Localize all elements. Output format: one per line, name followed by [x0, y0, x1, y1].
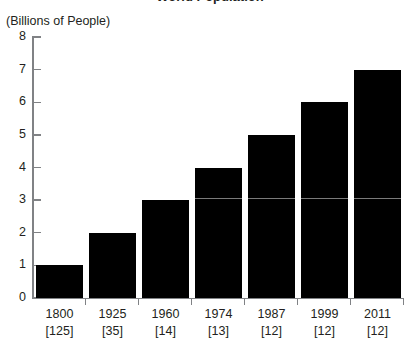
x-axis-label: 1999[12]: [298, 306, 351, 339]
x-axis-label: 1925[35]: [86, 306, 139, 339]
x-axis-tick: [85, 298, 86, 305]
x-axis-label-year: 1800: [33, 306, 86, 323]
x-axis-label-year: 1925: [86, 306, 139, 323]
bar: [89, 233, 136, 298]
bar: [248, 135, 295, 298]
y-axis-title: (Billions of People): [6, 14, 110, 28]
x-axis-tick: [244, 298, 245, 305]
x-axis-tick: [138, 298, 139, 305]
x-axis-tick: [350, 298, 351, 305]
chart-title-cropped: World Population: [0, 0, 420, 8]
chart-title-text: World Population: [0, 0, 420, 4]
x-axis-label: 1987[12]: [245, 306, 298, 339]
y-axis-tick-label: 1: [0, 257, 26, 271]
x-axis-label-interval: [35]: [86, 323, 139, 340]
x-axis-label: 1974[13]: [192, 306, 245, 339]
y-axis-tick-label: 8: [0, 29, 26, 43]
x-axis-label-interval: [125]: [33, 323, 86, 340]
y-axis-tick-label: 5: [0, 127, 26, 141]
bar: [301, 102, 348, 298]
population-bar-chart: World Population (Billions of People) 01…: [0, 0, 420, 349]
plot-area: [33, 37, 404, 298]
x-axis-tick: [191, 298, 192, 305]
y-axis-tick-label: 0: [0, 290, 26, 304]
x-axis-label-interval: [12]: [245, 323, 298, 340]
x-axis-label: 1960[14]: [139, 306, 192, 339]
x-axis-label-year: 2011: [351, 306, 404, 323]
x-axis-label-year: 1960: [139, 306, 192, 323]
y-axis-tick-label: 7: [0, 62, 26, 76]
x-axis-label-interval: [13]: [192, 323, 245, 340]
x-axis-label: 2011[12]: [351, 306, 404, 339]
x-axis-label-interval: [12]: [298, 323, 351, 340]
x-axis-tick: [297, 298, 298, 305]
x-axis-label-interval: [12]: [351, 323, 404, 340]
y-axis-tick-label: 3: [0, 192, 26, 206]
y-axis-tick-label: 6: [0, 94, 26, 108]
x-axis-label-interval: [14]: [139, 323, 192, 340]
bar: [142, 200, 189, 298]
x-axis-label: 1800[125]: [33, 306, 86, 339]
bar: [36, 265, 83, 298]
x-axis-label-year: 1974: [192, 306, 245, 323]
x-axis-label-year: 1987: [245, 306, 298, 323]
y-axis-tick-label: 2: [0, 225, 26, 239]
bar: [195, 168, 242, 299]
bar: [354, 70, 401, 298]
x-axis-label-year: 1999: [298, 306, 351, 323]
x-axis-tick: [403, 298, 404, 305]
y-axis-tick-label: 4: [0, 160, 26, 174]
